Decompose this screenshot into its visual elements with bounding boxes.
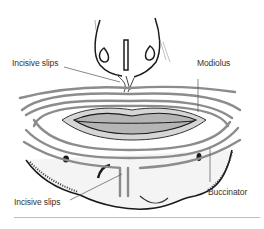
- label-incisive-slips-lower: Incisive slips: [14, 197, 60, 207]
- label-incisive-slips-upper: Incisive slips: [12, 58, 58, 68]
- label-modiolus: Modiolus: [197, 58, 230, 68]
- figure-canvas: Incisive slips Modiolus Incisive slips B…: [0, 0, 264, 229]
- label-buccinator: Buccinator: [208, 187, 247, 197]
- caption-divider: [14, 217, 260, 218]
- nose: [95, 18, 160, 77]
